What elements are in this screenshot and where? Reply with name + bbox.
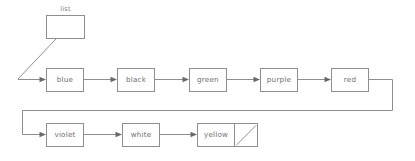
- node-label-green: green: [197, 75, 219, 84]
- head-arrow-icon: [40, 77, 47, 83]
- node-label-blue: blue: [57, 75, 74, 84]
- head-box-label: list: [60, 5, 71, 13]
- diagram-canvas: list blue black green purple red: [0, 0, 415, 161]
- arrow-icon-green-purple: [254, 77, 261, 83]
- arrow-icon-black-green: [183, 77, 190, 83]
- node-label-white: white: [131, 130, 152, 139]
- node-label-black: black: [126, 75, 147, 84]
- node-label-red: red: [344, 75, 356, 84]
- node-label-violet: violet: [54, 130, 75, 139]
- arrow-icon-white-yellow: [191, 132, 198, 138]
- arrow-icon-wrap-violet: [40, 132, 47, 138]
- linked-list-diagram: list blue black green purple red: [0, 0, 415, 161]
- arrow-icon-blue-black: [111, 77, 118, 83]
- node-label-purple: purple: [267, 75, 292, 84]
- arrow-icon-purple-red: [325, 77, 332, 83]
- arrow-icon-violet-white: [116, 132, 123, 138]
- node-label-yellow: yellow: [204, 130, 228, 139]
- head-box: [47, 16, 85, 39]
